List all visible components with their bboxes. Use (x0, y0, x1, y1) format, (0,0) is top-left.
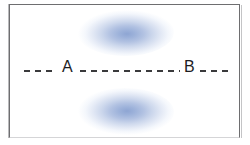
axis-dash-segment-right (200, 70, 233, 72)
axis-dash-segment-left (24, 70, 57, 72)
figure-canvas: A B (0, 0, 250, 145)
axis-dash-segment-middle (80, 70, 180, 72)
dashed-axis-layer: A B (0, 0, 250, 145)
axis-label-b: B (184, 59, 195, 75)
axis-label-a: A (62, 59, 73, 75)
